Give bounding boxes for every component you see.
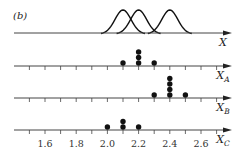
- distribution-curves: [101, 10, 192, 34]
- tick-label: 1.6: [37, 138, 52, 149]
- arrow-head-icon: [223, 96, 232, 101]
- data-dot: [167, 92, 172, 97]
- tick-label: 2.0: [100, 138, 115, 149]
- data-dot: [152, 92, 157, 97]
- axis-label: XB: [215, 101, 230, 116]
- tick-label: 2.6: [193, 138, 208, 149]
- data-dot: [105, 124, 110, 129]
- data-dot: [120, 119, 125, 124]
- data-dot: [120, 60, 125, 65]
- data-dot: [136, 49, 141, 54]
- bell-curve: [148, 10, 192, 34]
- data-dots: [105, 49, 188, 129]
- data-dot: [136, 55, 141, 60]
- arrow-head-icon: [223, 64, 232, 69]
- data-dot: [167, 81, 172, 86]
- arrow-head-icon: [223, 128, 232, 133]
- tick-label: 1.8: [69, 138, 84, 149]
- data-dot: [167, 87, 172, 92]
- data-dot: [136, 60, 141, 65]
- tick-label: 2.4: [162, 138, 177, 149]
- data-dot: [136, 124, 141, 129]
- dot-plot-figure: 1.61.82.02.22.42.6XXAXBXC: [0, 0, 248, 161]
- data-dot: [152, 60, 157, 65]
- data-dot: [167, 76, 172, 81]
- axes: [14, 31, 232, 135]
- data-dot: [120, 124, 125, 129]
- arrow-head-icon: [223, 31, 232, 36]
- tick-label: 2.2: [131, 138, 146, 149]
- data-dot: [183, 92, 188, 97]
- axis-label: XA: [215, 69, 230, 84]
- axis-label: XC: [215, 133, 230, 148]
- axis-label: X: [218, 36, 228, 49]
